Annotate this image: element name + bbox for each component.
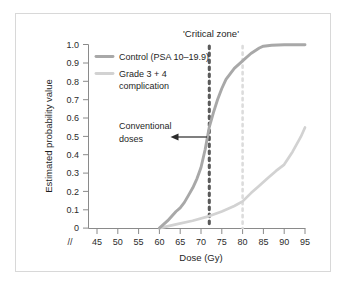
legend-item-control: Control (PSA 10–19.9) <box>96 52 209 62</box>
legend-label-grade-3-4-line2: complication <box>119 81 169 91</box>
x-tick-label: 95 <box>300 237 310 247</box>
y-tick-label: 0.4 <box>66 150 79 160</box>
y-tick-label: 0.6 <box>66 113 79 123</box>
y-tick-label: 0.3 <box>66 168 79 178</box>
annotation-label-line1: Conventional <box>119 121 172 131</box>
probability-dose-chart: 'Critical zone' 1.0 0.9 0.8 0.7 0.6 0.5 … <box>0 0 349 288</box>
chart-legend: Control (PSA 10–19.9) Grade 3 + 4 compli… <box>96 52 209 91</box>
y-tick-label: 0.9 <box>66 58 79 68</box>
y-axis-title: Estimated probability value <box>43 79 54 193</box>
annotation-arrow-head-icon <box>171 133 179 140</box>
x-tick-label: 45 <box>92 237 102 247</box>
y-tick-label: 0.2 <box>66 187 79 197</box>
y-tick-label: 1.0 <box>66 40 79 50</box>
series-line-grade-3-4-complication <box>159 128 305 229</box>
y-tick-label: 0.5 <box>66 132 79 142</box>
legend-label-control: Control (PSA 10–19.9) <box>119 52 209 62</box>
y-tick-label: 0 <box>74 223 79 233</box>
x-tick-label: 70 <box>196 237 206 247</box>
x-tick-label: 50 <box>113 237 123 247</box>
y-axis-tick-labels: 1.0 0.9 0.8 0.7 0.6 0.5 0.4 0.3 0.2 0.1 … <box>66 40 79 234</box>
y-tick-label: 0.7 <box>66 95 79 105</box>
x-tick-label: 90 <box>279 237 289 247</box>
x-axis-title: Dose (Gy) <box>179 252 222 263</box>
x-tick-label: 75 <box>217 237 227 247</box>
x-tick-label: 55 <box>134 237 144 247</box>
x-axis-tick-labels: 45 50 55 60 65 70 75 80 85 90 95 <box>92 237 310 247</box>
x-tick-label: 65 <box>175 237 185 247</box>
annotation-label-line2: doses <box>119 134 144 144</box>
chart-container: 'Critical zone' 1.0 0.9 0.8 0.7 0.6 0.5 … <box>0 0 349 288</box>
y-tick-label: 0.8 <box>66 77 79 87</box>
legend-item-grade-3-4: Grade 3 + 4 complication <box>96 69 169 91</box>
axis-break-mark: // <box>67 237 73 247</box>
conventional-doses-annotation: Conventional doses <box>119 121 207 144</box>
x-axis-ticks <box>97 229 305 235</box>
x-tick-label: 60 <box>154 237 164 247</box>
y-tick-label: 0.1 <box>66 205 79 215</box>
legend-label-grade-3-4-line1: Grade 3 + 4 <box>119 69 167 79</box>
y-axis-ticks <box>83 45 89 229</box>
chart-title: 'Critical zone' <box>183 28 239 39</box>
x-tick-label: 80 <box>238 237 248 247</box>
x-tick-label: 85 <box>258 237 268 247</box>
